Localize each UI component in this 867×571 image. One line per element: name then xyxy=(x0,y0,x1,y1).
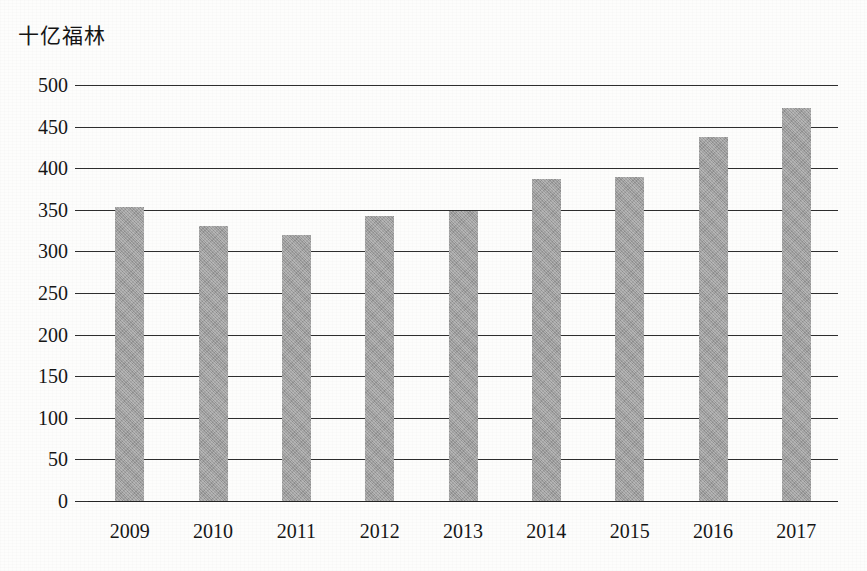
gridline xyxy=(88,85,838,86)
bar-2017 xyxy=(782,108,811,501)
y-axis-tick-mark xyxy=(75,168,88,169)
x-axis-tick-label: 2014 xyxy=(526,521,566,541)
y-axis-tick-mark xyxy=(75,459,88,460)
bar-2013 xyxy=(449,211,478,501)
gridline xyxy=(88,501,838,502)
x-axis-tick-label: 2010 xyxy=(193,521,233,541)
y-axis-tick-label: 300 xyxy=(38,241,68,261)
y-axis-tick-mark xyxy=(75,293,88,294)
y-axis-tick-mark xyxy=(75,251,88,252)
bar-2009 xyxy=(115,207,144,501)
bar-2012 xyxy=(365,216,394,501)
y-axis-tick-label: 0 xyxy=(58,491,68,511)
y-axis-tick-mark xyxy=(75,418,88,419)
y-axis-tick-mark xyxy=(75,376,88,377)
x-axis-tick-label: 2017 xyxy=(776,521,816,541)
y-axis-unit-label: 十亿福林 xyxy=(18,26,106,47)
y-axis-tick-label: 50 xyxy=(48,449,68,469)
x-axis-tick-label: 2009 xyxy=(110,521,150,541)
y-axis-tick-mark xyxy=(75,85,88,86)
y-axis-tick-mark xyxy=(75,335,88,336)
y-axis-tick-mark xyxy=(75,501,88,502)
plot-area: 500450400350300250200150100500 200920102… xyxy=(88,85,838,501)
x-axis-tick-label: 2011 xyxy=(277,521,316,541)
chart-page: 十亿福林 500450400350300250200150100500 2009… xyxy=(0,0,867,571)
bar-2016 xyxy=(699,137,728,501)
y-axis-tick-label: 350 xyxy=(38,200,68,220)
y-axis-tick-label: 450 xyxy=(38,117,68,137)
y-axis-tick-label: 200 xyxy=(38,325,68,345)
bar-2014 xyxy=(532,179,561,501)
bar-2015 xyxy=(615,177,644,501)
x-axis-tick-label: 2015 xyxy=(610,521,650,541)
x-axis-tick-label: 2016 xyxy=(693,521,733,541)
bar-2011 xyxy=(282,235,311,501)
y-axis-tick-mark xyxy=(75,127,88,128)
x-axis-tick-label: 2013 xyxy=(443,521,483,541)
y-axis-tick-label: 100 xyxy=(38,408,68,428)
bar-2010 xyxy=(199,226,228,501)
y-axis-tick-label: 150 xyxy=(38,366,68,386)
y-axis-tick-label: 250 xyxy=(38,283,68,303)
x-axis-tick-label: 2012 xyxy=(360,521,400,541)
y-axis-tick-label: 500 xyxy=(38,75,68,95)
gridline xyxy=(88,127,838,128)
y-axis-tick-mark xyxy=(75,210,88,211)
y-axis-tick-label: 400 xyxy=(38,158,68,178)
